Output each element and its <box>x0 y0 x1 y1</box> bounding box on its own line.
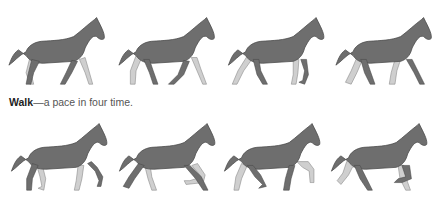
walk-row <box>0 8 437 98</box>
caption-term: Walk <box>9 96 33 108</box>
horse-walk-frame-2 <box>115 8 220 98</box>
horse-trot-frame-2 <box>113 114 218 204</box>
horse-walk-frame-1 <box>5 8 110 98</box>
horse-trot-frame-4 <box>325 114 430 204</box>
horse-walk-frame-4 <box>332 8 437 98</box>
caption-text: —a pace in four time. <box>33 96 133 108</box>
figure-caption: Walk—a pace in four time. <box>9 96 133 108</box>
horse-trot-frame-3 <box>218 114 323 204</box>
horse-walk-frame-3 <box>222 8 327 98</box>
horse-trot-frame-1 <box>5 114 110 204</box>
trot-row <box>0 114 437 204</box>
